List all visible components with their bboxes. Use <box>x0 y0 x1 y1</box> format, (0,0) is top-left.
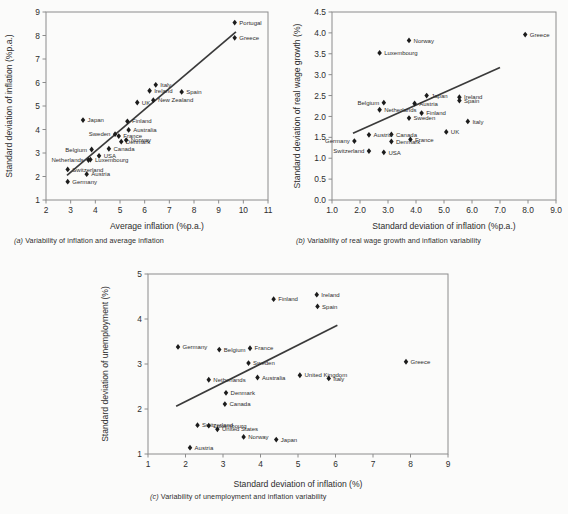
point-marker <box>444 129 449 135</box>
point-marker <box>217 347 222 353</box>
point-label: UK <box>142 100 150 106</box>
y-tick-label: 3 <box>35 148 40 158</box>
data-point: Sweden <box>407 115 436 121</box>
point-label: United States <box>222 426 258 432</box>
data-point: Canada <box>389 132 418 138</box>
data-point: Norway <box>241 434 268 440</box>
x-tick-label: 4 <box>93 205 98 215</box>
point-label: France <box>255 345 274 351</box>
point-marker <box>89 147 94 153</box>
data-point: Italy <box>466 119 484 125</box>
data-point: Austria <box>367 132 393 138</box>
data-point: Portugal <box>232 20 261 26</box>
point-label: Ireland <box>154 88 172 94</box>
y-tick-label: 5 <box>35 101 40 111</box>
data-point: Belgium <box>65 147 94 153</box>
x-tick-label: 2 <box>183 459 188 469</box>
chart-b-caption: (b) Variability of real wage growth and … <box>296 236 481 245</box>
data-point: New Zealand <box>151 97 193 103</box>
point-label: Belgium <box>224 347 246 353</box>
point-label: Austria <box>374 132 393 138</box>
point-label: Denmark <box>231 390 256 396</box>
point-marker <box>457 98 462 104</box>
point-marker <box>377 107 382 113</box>
point-label: Denmark <box>396 139 421 145</box>
data-point: Canada <box>107 146 136 152</box>
point-marker <box>424 93 429 99</box>
chart-c-caption: (c) Variability of unemployment and infl… <box>150 492 327 501</box>
point-label: Germany <box>72 179 97 185</box>
y-tick-label: 1 <box>137 449 142 459</box>
point-marker <box>188 445 193 451</box>
data-point: Ireland <box>147 88 172 94</box>
point-label: Ireland <box>321 292 339 298</box>
point-marker <box>107 146 112 152</box>
point-marker <box>389 139 394 145</box>
point-label: Netherlands <box>384 107 416 113</box>
point-marker <box>241 434 246 440</box>
caption-marker: (a) <box>14 236 23 245</box>
point-marker <box>404 359 409 365</box>
point-label: USA <box>388 150 400 156</box>
point-label: UK <box>451 129 459 135</box>
point-marker <box>65 179 70 185</box>
x-axis-label: Standard deviation of inflation (%) <box>234 479 363 489</box>
x-tick-label: 1 <box>146 459 151 469</box>
y-tick-label: 7 <box>35 54 40 64</box>
x-tick-label: 5.0 <box>438 205 450 215</box>
point-marker <box>151 97 156 103</box>
point-label: Austria <box>419 101 438 107</box>
point-marker <box>407 115 412 121</box>
point-marker <box>255 375 260 381</box>
point-marker <box>147 88 152 94</box>
x-tick-label: 8.0 <box>522 205 534 215</box>
point-label: Italy <box>333 376 344 382</box>
y-axis-label: Standard deviation of inflation (%p.a.) <box>4 34 14 177</box>
point-label: Sweden <box>253 360 275 366</box>
point-label: Switzerland <box>333 148 364 154</box>
point-marker <box>274 437 279 443</box>
point-label: Austria <box>195 445 214 451</box>
caption-marker: (b) <box>296 236 305 245</box>
point-label: Sweden <box>89 131 111 137</box>
data-point: France <box>248 345 274 351</box>
point-marker <box>377 50 382 56</box>
x-tick-label: 4 <box>258 459 263 469</box>
chart-panel-a: 234567891011123456789PortugalGreeceItaly… <box>0 0 288 234</box>
y-tick-label: 2 <box>137 404 142 414</box>
x-tick-label: 1.0 <box>326 205 338 215</box>
y-tick-label: 2.0 <box>314 112 326 122</box>
point-marker <box>314 292 319 298</box>
chart-panel-c: 12345678912345IrelandFinlandSpainGermany… <box>96 262 476 492</box>
data-point: Australia <box>255 375 286 381</box>
data-point: Norway <box>407 38 434 44</box>
point-label: Greece <box>239 35 259 41</box>
point-label: Japan <box>431 93 447 99</box>
x-tick-label: 3.0 <box>382 205 394 215</box>
y-tick-label: 1.0 <box>314 153 326 163</box>
x-axis-label: Standard deviation of inflation (%p.a.) <box>372 221 515 231</box>
chart-a-caption: (a) Variability of inflation and average… <box>14 236 164 245</box>
point-marker <box>224 390 229 396</box>
x-tick-label: 9 <box>446 459 451 469</box>
plot-frame <box>332 12 556 200</box>
point-label: Canada <box>229 401 251 407</box>
point-marker <box>246 360 251 366</box>
data-point: Canada <box>223 401 252 407</box>
y-tick-label: 4.5 <box>314 7 326 17</box>
point-label: Sweden <box>414 115 436 121</box>
data-point: Germany <box>65 179 97 185</box>
point-label: Germany <box>325 138 350 144</box>
data-point: UK <box>135 100 150 106</box>
x-tick-label: 3 <box>221 459 226 469</box>
point-marker <box>298 372 303 378</box>
x-tick-label: 6.0 <box>466 205 478 215</box>
data-point: Germany <box>176 344 208 350</box>
x-tick-label: 11 <box>264 205 273 215</box>
y-tick-label: 3.0 <box>314 70 326 80</box>
point-label: Netherlands <box>51 157 83 163</box>
x-tick-label: 7 <box>371 459 376 469</box>
data-point: Greece <box>232 35 259 41</box>
data-point: Australia <box>126 127 157 133</box>
point-label: Japan <box>281 437 297 443</box>
